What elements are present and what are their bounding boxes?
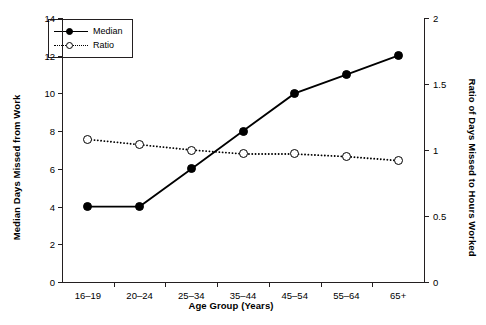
chart-plot-area xyxy=(0,0,486,325)
data-point-ratio-2 xyxy=(187,146,196,155)
data-point-ratio-6 xyxy=(394,156,403,165)
data-point-ratio-5 xyxy=(342,152,351,161)
chart-container: Median Days Missed from Work Ratio of Da… xyxy=(0,0,486,325)
series-line-ratio xyxy=(0,0,486,325)
data-point-ratio-3 xyxy=(239,149,248,158)
